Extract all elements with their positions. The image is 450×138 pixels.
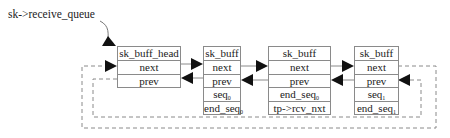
box-row: prev bbox=[118, 74, 180, 87]
tail-prev-arrowhead bbox=[398, 74, 410, 86]
box-row: end_seq0 bbox=[204, 101, 240, 114]
row-label: tp->rcv_nxt bbox=[273, 102, 325, 114]
head-next-arrowhead bbox=[105, 60, 117, 72]
row-subscript: 1 bbox=[393, 109, 396, 115]
row-label: sk_buff bbox=[283, 47, 316, 59]
box-row: sk_buff bbox=[204, 47, 240, 60]
box-row: sk_buff_head bbox=[118, 47, 180, 60]
row-label: seq bbox=[213, 88, 228, 100]
row-subscript: 0 bbox=[240, 109, 243, 115]
prev-arrowhead bbox=[241, 74, 253, 86]
row-label: next bbox=[290, 61, 309, 73]
box-row: tp->rcv_nxt bbox=[269, 101, 330, 114]
box-row: next bbox=[118, 60, 180, 73]
box-row: seq0 bbox=[204, 87, 240, 100]
row-label: seq bbox=[368, 88, 383, 100]
row-label: prev bbox=[212, 75, 232, 87]
row-label: end_seq bbox=[280, 88, 316, 100]
row-label: end_seq bbox=[204, 102, 240, 114]
next-arrowhead bbox=[256, 60, 268, 72]
box-row: next bbox=[355, 60, 398, 73]
row-label: prev bbox=[367, 75, 387, 87]
prev-arrowhead bbox=[331, 74, 343, 86]
box-row: sk_buff bbox=[269, 47, 330, 60]
receive-queue-label: sk->receive_queue bbox=[8, 8, 95, 20]
box-row: next bbox=[269, 60, 330, 73]
row-label: end_seq bbox=[357, 102, 393, 114]
sk-buff-head-box: sk_buff_head next prev bbox=[117, 46, 181, 88]
sk-buff-box-0: sk_buff next prev seq0 end_seq0 bbox=[203, 46, 241, 115]
row-subscript: 0 bbox=[316, 95, 319, 101]
row-label: prev bbox=[290, 75, 310, 87]
box-row: sk_buff bbox=[355, 47, 398, 60]
box-row: end_seq1 bbox=[355, 101, 398, 114]
row-label: next bbox=[367, 61, 386, 73]
next-arrowhead bbox=[191, 58, 203, 70]
prev-arrowhead bbox=[181, 72, 193, 84]
box-row: prev bbox=[204, 74, 240, 87]
box-row: seq1 bbox=[355, 87, 398, 100]
box-row: end_seq0 bbox=[269, 87, 330, 100]
row-subscript: 0 bbox=[228, 95, 231, 101]
next-arrowhead bbox=[342, 60, 354, 72]
box-row: prev bbox=[269, 74, 330, 87]
row-label: sk_buff bbox=[205, 47, 238, 59]
receive-queue-arrowhead bbox=[102, 36, 116, 46]
sk-buff-box-mid: sk_buff next prev end_seq0 tp->rcv_nxt bbox=[268, 46, 331, 115]
row-subscript: 1 bbox=[382, 95, 385, 101]
row-label: next bbox=[213, 61, 232, 73]
sk-buff-box-1: sk_buff next prev seq1 end_seq1 bbox=[354, 46, 399, 115]
row-label: sk_buff_head bbox=[119, 47, 179, 59]
row-label: prev bbox=[139, 75, 159, 87]
box-row: next bbox=[204, 60, 240, 73]
row-label: next bbox=[140, 61, 159, 73]
row-label: sk_buff bbox=[360, 47, 393, 59]
box-row: prev bbox=[355, 74, 398, 87]
